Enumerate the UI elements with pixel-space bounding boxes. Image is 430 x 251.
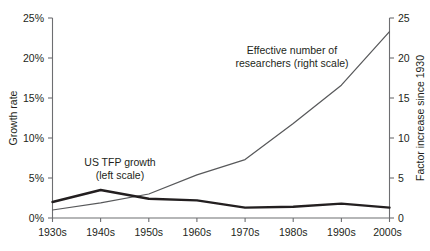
right-tick-label-25: 25 bbox=[398, 12, 410, 24]
x-tick-label-1960s: 1960s bbox=[183, 226, 212, 238]
left-axis-ticks bbox=[48, 18, 53, 218]
right-axis-ticks bbox=[390, 18, 395, 218]
line-chart: 25% 20% 15% 10% 5% 0% 25 20 15 10 5 0 19… bbox=[0, 0, 430, 251]
series-line-tfp bbox=[53, 190, 390, 208]
left-tick-label-10: 10% bbox=[23, 132, 44, 144]
annotation-tfp-line2: (left scale) bbox=[96, 169, 144, 181]
right-tick-label-0: 0 bbox=[398, 212, 404, 224]
left-tick-label-20: 20% bbox=[23, 52, 44, 64]
annotation-researchers: Effective number of researchers (right s… bbox=[235, 44, 348, 69]
left-tick-label-5: 5% bbox=[29, 172, 44, 184]
x-tick-label-1990s: 1990s bbox=[327, 226, 356, 238]
x-axis-ticks bbox=[53, 218, 390, 222]
x-tick-label-1950s: 1950s bbox=[134, 226, 163, 238]
x-tick-label-1940s: 1940s bbox=[86, 226, 115, 238]
annotation-tfp-growth: US TFP growth (left scale) bbox=[84, 156, 156, 181]
left-tick-label-0: 0% bbox=[29, 212, 44, 224]
right-tick-label-15: 15 bbox=[398, 92, 410, 104]
x-tick-label-2000s: 2000s bbox=[373, 226, 402, 238]
left-tick-label-15: 15% bbox=[23, 92, 44, 104]
annotation-researchers-line1: Effective number of bbox=[247, 44, 337, 56]
chart-container: 25% 20% 15% 10% 5% 0% 25 20 15 10 5 0 19… bbox=[0, 0, 430, 251]
x-tick-label-1970s: 1970s bbox=[231, 226, 260, 238]
right-tick-label-20: 20 bbox=[398, 52, 410, 64]
annotation-researchers-line2: researchers (right scale) bbox=[235, 57, 348, 69]
right-axis-title: Factor increase since 1930 bbox=[414, 55, 426, 181]
x-tick-label-1930s: 1930s bbox=[38, 226, 67, 238]
right-tick-label-10: 10 bbox=[398, 132, 410, 144]
left-tick-label-25: 25% bbox=[23, 12, 44, 24]
left-axis-title: Growth rate bbox=[7, 90, 19, 145]
x-tick-label-1980s: 1980s bbox=[279, 226, 308, 238]
right-tick-label-5: 5 bbox=[398, 172, 404, 184]
annotation-tfp-line1: US TFP growth bbox=[84, 156, 156, 168]
